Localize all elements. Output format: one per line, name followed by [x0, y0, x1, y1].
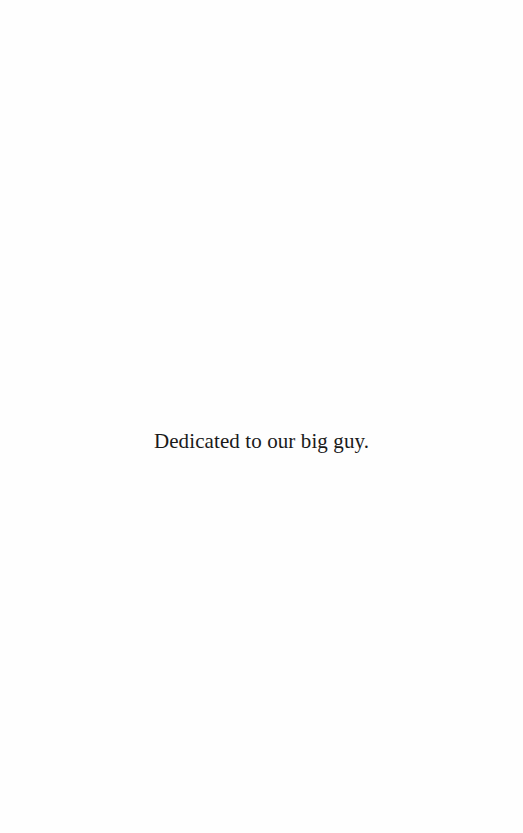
dedication-text: Dedicated to our big guy.	[0, 428, 523, 454]
book-page: Dedicated to our big guy.	[0, 0, 523, 833]
